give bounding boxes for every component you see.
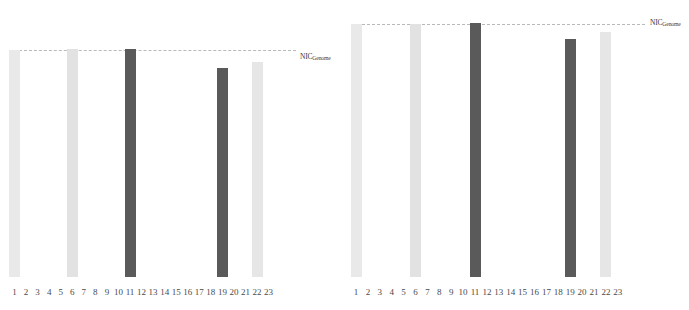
bar [470,23,481,277]
x-axis-tick-label: 18 [554,286,563,298]
threshold-label-main-left: NIC [300,52,312,61]
x-axis-tick-label: 22 [601,286,610,298]
x-axis-tick-label: 11 [126,286,135,298]
x-axis-tick-label: 23 [613,286,622,298]
x-axis-tick-label: 1 [354,286,359,298]
x-axis-tick-label: 1 [12,286,17,298]
bar [600,32,611,277]
x-axis-tick-label: 15 [172,286,181,298]
x-axis-tick-label: 23 [264,286,273,298]
chart-panel-right: NICGenome 123456789101112131415161718192… [345,0,689,310]
bar [351,24,362,277]
x-axis-tick-label: 6 [70,286,75,298]
x-axis-tick-label: 17 [195,286,204,298]
x-axis-tick-label: 18 [206,286,215,298]
x-axis-tick-label: 15 [518,286,527,298]
threshold-label-main-right: NIC [650,18,662,27]
x-axis-tick-label: 11 [471,286,480,298]
x-axis-tick-label: 13 [494,286,503,298]
threshold-line-left [14,50,296,51]
x-axis-tick-label: 3 [378,286,383,298]
threshold-line-right [352,24,645,25]
x-axis-tick-label: 7 [82,286,87,298]
figure-container: NICGenome 123456789101112131415161718192… [0,0,689,310]
x-axis-tick-label: 3 [35,286,40,298]
bar [67,49,78,277]
x-axis-tick-label: 9 [449,286,454,298]
x-axis-tick-label: 8 [93,286,98,298]
x-axis-tick-label: 17 [542,286,551,298]
bar [252,62,263,277]
x-axis-tick-label: 22 [253,286,262,298]
x-axis-tick-label: 7 [425,286,430,298]
x-axis-tick-label: 14 [160,286,169,298]
x-axis-ticks-right: 1234567891011121314151617181920212223 [345,282,689,298]
x-axis-tick-label: 12 [482,286,491,298]
threshold-label-sub-right: Genome [662,21,680,27]
x-axis-tick-label: 12 [137,286,146,298]
x-axis-tick-label: 2 [366,286,371,298]
x-axis-tick-label: 2 [24,286,29,298]
bar [9,50,20,277]
x-axis-tick-label: 10 [459,286,468,298]
threshold-label-left: NICGenome [300,52,331,61]
x-axis-tick-label: 14 [506,286,515,298]
x-axis-tick-label: 5 [58,286,63,298]
x-axis-tick-label: 21 [241,286,250,298]
x-axis-tick-label: 5 [401,286,406,298]
x-axis-tick-label: 6 [413,286,418,298]
x-axis-tick-label: 19 [218,286,227,298]
x-axis-tick-label: 8 [437,286,442,298]
x-axis-tick-label: 19 [566,286,575,298]
x-axis-tick-label: 9 [105,286,110,298]
bar [217,68,228,277]
threshold-label-right: NICGenome [650,18,681,27]
plot-area-right: NICGenome 123456789101112131415161718192… [345,0,689,310]
x-axis-tick-label: 21 [590,286,599,298]
x-axis-tick-label: 16 [530,286,539,298]
x-axis-tick-label: 4 [389,286,394,298]
x-axis-tick-label: 4 [47,286,52,298]
x-axis-tick-label: 16 [183,286,192,298]
bar [410,24,421,277]
bar [565,39,576,277]
x-axis-tick-label: 20 [229,286,238,298]
threshold-label-sub-left: Genome [312,55,330,61]
x-axis-tick-label: 20 [578,286,587,298]
bar [125,49,136,277]
x-axis-tick-label: 10 [114,286,123,298]
x-axis-tick-label: 13 [149,286,158,298]
